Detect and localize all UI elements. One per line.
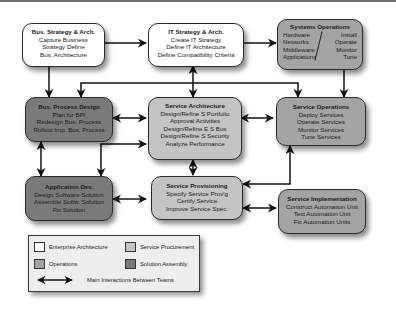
node-title: Systems Operations — [278, 23, 362, 31]
node-line: Tune Services — [277, 133, 365, 141]
node-line: Redesign Bus. Process — [26, 118, 112, 126]
node-line: Rollout Imp. Bus. Process — [26, 126, 112, 134]
node-title: IT Strategy & Arch. — [149, 28, 243, 36]
legend-label: Operations — [49, 261, 77, 267]
node-line: Fix Solution — [26, 206, 112, 214]
node-line: Construct Automation Unit — [279, 203, 365, 211]
systems-ops-actions: Install Operate Monitor Tune — [335, 31, 357, 61]
node-service-ops: Service Operations Deploy Services Opera… — [276, 97, 366, 146]
action-item: Operate — [335, 38, 357, 46]
node-line: Assemble Softw. Solution — [26, 198, 112, 206]
edge-it-strategy-hub — [81, 83, 298, 97]
node-line: Test Automation Unit — [279, 210, 365, 218]
node-it-strategy: IT Strategy & Arch. Create IT Strategy D… — [148, 23, 244, 67]
edge-bus-process-branch — [101, 144, 146, 176]
legend-item-solution-assembly: Solution Assembly — [125, 259, 187, 269]
node-title: Service Operations — [277, 103, 365, 111]
node-line: Monitor Services — [277, 126, 365, 134]
systems-ops-components: Hardware Networks Middleware Application… — [283, 31, 316, 61]
node-line: Design/Refine E S Bus — [149, 125, 241, 133]
node-title: Application Dev. — [26, 183, 112, 191]
edge-service-ops-service-prov — [243, 146, 290, 184]
legend: Enterprise Architecture Service Procurem… — [28, 235, 200, 292]
node-bus-strategy: Bus. Strategy & Arch. Capture Business S… — [22, 23, 105, 67]
component-item: Networks — [283, 38, 316, 46]
legend-label: Service Procurement — [140, 244, 194, 250]
component-item: Hardware — [283, 31, 316, 39]
legend-label: Solution Assembly — [140, 261, 187, 267]
node-title: Service Implementation — [279, 195, 365, 203]
node-line: Certify Service — [152, 197, 242, 205]
legend-label: Main Interactions Between Teams — [87, 277, 174, 283]
legend-item-operations: Operations — [34, 259, 77, 269]
node-line: Plan for BPI — [26, 111, 112, 119]
node-line: Analyze Performance — [149, 140, 241, 148]
node-title: Bus. Strategy & Arch. — [23, 28, 104, 36]
swatch-mid-gray — [34, 259, 45, 269]
node-bus-process: Bus. Process Design Plan for BPI Redesig… — [25, 97, 113, 142]
node-line: Create IT Strategy — [149, 36, 243, 44]
node-service-arch: Service Architecture Design/Refine S Por… — [148, 97, 242, 160]
node-systems-ops: Systems Operations Hardware Networks Mid… — [277, 19, 363, 70]
legend-item-service-procurement: Service Procurement — [125, 242, 194, 252]
legend-item-interaction: Main Interactions Between Teams — [35, 276, 174, 284]
swatch-light-gray — [125, 242, 136, 252]
node-line: Improve Service Spec. — [152, 205, 242, 213]
swatch-white — [34, 242, 45, 252]
node-title: Service Provisioning — [152, 182, 242, 190]
systems-ops-columns: Hardware Networks Middleware Application… — [278, 31, 362, 61]
action-item: Install — [335, 31, 357, 39]
swatch-dark-gray — [125, 259, 136, 269]
node-title: Bus. Process Design — [26, 103, 112, 111]
node-line: Strategy Define — [23, 43, 104, 51]
legend-item-enterprise-architecture: Enterprise Architecture — [34, 242, 108, 252]
legend-label: Enterprise Architecture — [49, 244, 108, 250]
node-service-prov: Service Provisioning Specify Service Pro… — [151, 176, 243, 220]
node-line: Define Compatibility Criteria — [149, 51, 243, 59]
node-line: Fix Automation Units — [279, 218, 365, 226]
action-item: Tune — [335, 53, 357, 61]
node-line: Design/Refine S Security — [149, 132, 241, 140]
node-line: Deploy Services — [277, 111, 365, 119]
node-line: Design Software Solution — [26, 191, 112, 199]
node-title: Service Architecture — [149, 102, 241, 110]
action-item: Monitor — [335, 46, 357, 54]
node-line: Specify Service Prov'g — [152, 190, 242, 198]
node-line: Bus. Architecture — [23, 51, 104, 59]
node-service-impl: Service Implementation Construct Automat… — [278, 189, 366, 234]
component-item: Applications — [283, 53, 316, 61]
node-line: Approval Activities — [149, 117, 241, 125]
component-item: Middleware — [283, 46, 316, 54]
node-line: Operate Services — [277, 118, 365, 126]
node-line: Design/Refine S Portfolio — [149, 110, 241, 118]
node-line: Capture Business — [23, 36, 104, 44]
node-app-dev: Application Dev. Design Software Solutio… — [25, 176, 113, 221]
double-arrow-icon — [35, 276, 75, 284]
node-line: Define IT Architecture — [149, 43, 243, 51]
